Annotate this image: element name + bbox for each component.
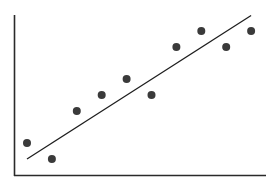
regression-line	[27, 16, 251, 160]
data-point	[23, 139, 31, 147]
data-point	[247, 27, 255, 35]
data-point	[123, 75, 131, 83]
data-point	[172, 43, 180, 51]
data-point	[98, 91, 106, 99]
scatter-chart	[0, 0, 277, 183]
data-point	[148, 91, 156, 99]
data-point	[48, 155, 56, 163]
data-point	[222, 43, 230, 51]
data-point	[197, 27, 205, 35]
data-point	[73, 107, 81, 115]
axes	[14, 15, 266, 176]
data-points	[23, 27, 255, 163]
trend-line	[27, 16, 251, 160]
